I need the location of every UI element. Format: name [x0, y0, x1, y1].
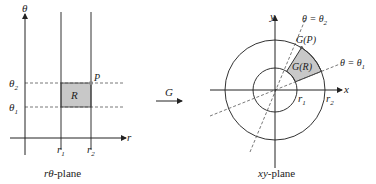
region-r-label: R — [70, 89, 78, 101]
xy-plane: y x G(P) G(R) θ = θ2 θ = θ1 r1 r2 xy-pla… — [210, 10, 365, 179]
theta-axis-label: θ — [22, 2, 28, 14]
r1-label: r1 — [298, 92, 306, 107]
r-theta-plane: θ r R P θ2 θ1 r1 r2 rθ-plane — [9, 2, 132, 179]
mapping-label: G — [165, 86, 173, 98]
r-axis-label: r — [127, 131, 132, 143]
r2-label: r2 — [87, 143, 95, 158]
xy-plane-caption: xy-plane — [257, 167, 295, 179]
point-p — [89, 81, 93, 85]
y-axis-label: y — [269, 10, 275, 22]
mapping-g: G — [156, 86, 182, 101]
region-g-r-label: G(R) — [292, 61, 313, 73]
theta2-label: θ2 — [9, 77, 18, 92]
r1-label: r1 — [57, 143, 65, 158]
theta1-label: θ1 — [9, 101, 18, 116]
point-g-p-label: G(P) — [296, 34, 317, 46]
r-theta-plane-caption: rθ-plane — [44, 167, 81, 179]
ray-theta2-label: θ = θ2 — [302, 13, 328, 27]
ray-theta1-label: θ = θ1 — [340, 57, 365, 71]
point-p-label: P — [93, 72, 100, 83]
x-axis-label: x — [343, 83, 349, 95]
diagram-canvas: θ r R P θ2 θ1 r1 r2 rθ-plane G — [0, 0, 376, 184]
point-g-p — [300, 46, 303, 49]
r2-label: r2 — [326, 92, 334, 107]
